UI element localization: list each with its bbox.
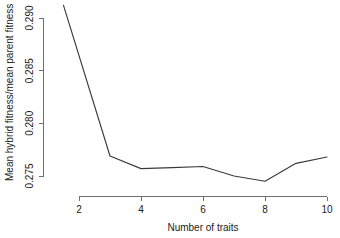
x-tick-label-6: 6 [200, 204, 206, 215]
y-tick-label-0.280: 0.280 [24, 110, 35, 135]
y-tick-label-0.285: 0.285 [24, 58, 35, 83]
x-tick-label-2: 2 [76, 204, 82, 215]
y-tick-label-0.290: 0.290 [24, 5, 35, 30]
line-chart: Mean hybrid fitness/mean parent fitness … [0, 0, 340, 238]
data-series-line [64, 5, 328, 181]
chart-container: Mean hybrid fitness/mean parent fitness … [0, 0, 340, 238]
y-axis-title: Mean hybrid fitness/mean parent fitness [4, 4, 15, 181]
x-axis-title: Number of traits [167, 222, 238, 233]
y-axis-ticks [39, 18, 44, 176]
x-tick-label-10: 10 [321, 204, 333, 215]
x-axis-ticks [79, 197, 327, 202]
x-tick-label-4: 4 [138, 204, 144, 215]
x-tick-label-8: 8 [262, 204, 268, 215]
y-tick-label-0.275: 0.275 [24, 163, 35, 188]
